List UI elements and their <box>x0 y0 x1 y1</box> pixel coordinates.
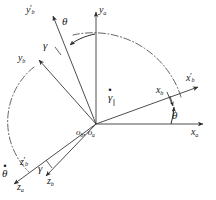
za-axis-line <box>14 124 96 184</box>
coordinate-frame-diagram: y′b ya θ γ yb x′b xb γ θ xa ob, oa z′b γ… <box>0 0 216 200</box>
gamma-dashdot-arc-path <box>8 67 34 172</box>
gamma-lower-tick <box>46 160 52 168</box>
yb-axis-line <box>39 60 96 124</box>
gamma-upper-tick <box>55 47 61 55</box>
theta-dashdot-arc-path <box>73 33 181 97</box>
xb-prime-axis-line <box>96 87 198 124</box>
diagram-canvas <box>0 0 216 200</box>
theta-curved-arrow-path <box>70 34 95 45</box>
zb-axis-line <box>46 124 96 176</box>
yb-prime-axis-line <box>53 16 96 124</box>
theta-angle-arc-right-path <box>171 107 174 124</box>
